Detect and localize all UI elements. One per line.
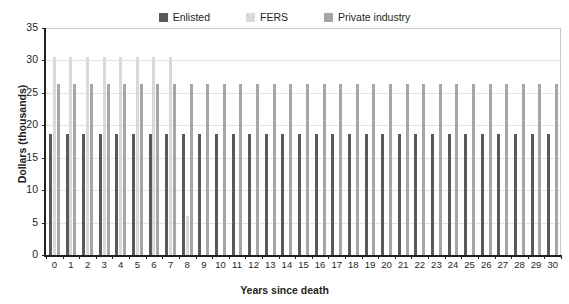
bar-private-industry: [422, 84, 425, 255]
legend-item-enlisted[interactable]: Enlisted: [159, 12, 210, 23]
bar-group: 2: [79, 28, 96, 255]
bar-enlisted: [497, 134, 500, 255]
x-axis-tick-label: 7: [162, 259, 180, 270]
bar-enlisted: [115, 134, 118, 255]
legend-item-fers[interactable]: FERS: [246, 12, 288, 23]
bar-private-industry: [173, 84, 176, 255]
bar-enlisted: [514, 134, 517, 255]
bar-fers: [169, 57, 172, 255]
bar-group: 5: [129, 28, 146, 255]
bar-enlisted: [49, 134, 52, 255]
bar-chart: EnlistedFERSPrivate industry Dollars (th…: [0, 0, 569, 304]
x-axis-tick-label: 1: [62, 259, 80, 270]
bar-private-industry: [206, 84, 209, 255]
bar-enlisted: [66, 134, 69, 255]
x-axis-tick-label: 2: [79, 259, 97, 270]
y-axis-tick-label: 15: [12, 151, 38, 163]
x-axis-tick: [561, 255, 562, 259]
bar-private-industry: [522, 84, 525, 255]
bar-enlisted: [431, 134, 434, 255]
y-axis-tick-label: 0: [12, 248, 38, 260]
bar-group: 6: [146, 28, 163, 255]
bar-private-industry: [289, 84, 292, 255]
x-axis-tick-label: 30: [544, 259, 562, 270]
x-axis-tick-label: 3: [95, 259, 113, 270]
bar-fers: [53, 57, 56, 255]
bar-group: 9: [196, 28, 213, 255]
x-axis-tick-label: 28: [510, 259, 528, 270]
bar-group: 7: [162, 28, 179, 255]
bar-enlisted: [365, 134, 368, 255]
bar-group: 3: [96, 28, 113, 255]
bar-group: 23: [428, 28, 445, 255]
legend-label: Private industry: [338, 12, 410, 23]
bar-private-industry: [389, 84, 392, 255]
bar-private-industry: [323, 84, 326, 255]
bar-enlisted: [265, 134, 268, 255]
bar-fers: [136, 57, 139, 255]
bar-group: 27: [495, 28, 512, 255]
y-axis-tick-label: 25: [12, 86, 38, 98]
x-axis-tick-label: 26: [477, 259, 495, 270]
bar-enlisted: [414, 134, 417, 255]
x-axis-tick-label: 18: [344, 259, 362, 270]
bar-private-industry: [372, 84, 375, 255]
legend-item-private-industry[interactable]: Private industry: [324, 12, 410, 23]
chart-legend: EnlistedFERSPrivate industry: [0, 9, 569, 25]
bar-private-industry: [57, 84, 60, 255]
bar-private-industry: [90, 84, 93, 255]
y-axis-tick-label: 5: [12, 216, 38, 228]
x-axis-tick-label: 11: [228, 259, 246, 270]
bar-group: 13: [262, 28, 279, 255]
bar-group: 11: [229, 28, 246, 255]
x-axis-tick-label: 17: [328, 259, 346, 270]
bar-fers: [69, 57, 72, 255]
bar-group: 25: [461, 28, 478, 255]
bar-enlisted: [448, 134, 451, 255]
bar-group: 12: [245, 28, 262, 255]
bar-enlisted: [398, 134, 401, 255]
x-axis-tick-label: 19: [361, 259, 379, 270]
x-axis-tick-label: 23: [427, 259, 445, 270]
y-axis-tick-label: 30: [12, 53, 38, 65]
bar-private-industry: [223, 84, 226, 255]
x-axis-tick-label: 15: [295, 259, 313, 270]
bar-private-industry: [356, 84, 359, 255]
x-axis-tick-label: 25: [461, 259, 479, 270]
x-axis-tick-label: 14: [278, 259, 296, 270]
bar-group: 22: [411, 28, 428, 255]
bar-private-industry: [306, 84, 309, 255]
bar-group: 16: [312, 28, 329, 255]
bar-enlisted: [298, 134, 301, 255]
bar-fers: [119, 57, 122, 255]
bar-enlisted: [547, 134, 550, 255]
bar-private-industry: [239, 84, 242, 255]
bar-group: 30: [544, 28, 561, 255]
x-axis-tick-label: 27: [494, 259, 512, 270]
legend-swatch-icon: [324, 13, 333, 22]
bar-private-industry: [538, 84, 541, 255]
bar-group: 24: [445, 28, 462, 255]
x-axis-tick-label: 20: [378, 259, 396, 270]
x-axis-tick-label: 22: [411, 259, 429, 270]
bar-private-industry: [273, 84, 276, 255]
bar-fers: [186, 216, 189, 255]
bar-group: 28: [511, 28, 528, 255]
bar-enlisted: [464, 134, 467, 255]
bar-enlisted: [481, 134, 484, 255]
bar-enlisted: [165, 134, 168, 255]
bar-enlisted: [182, 134, 185, 255]
legend-swatch-icon: [159, 13, 168, 22]
x-axis-tick-label: 0: [45, 259, 63, 270]
bar-enlisted: [381, 134, 384, 255]
bar-fers: [152, 57, 155, 255]
x-axis-tick-label: 24: [444, 259, 462, 270]
bar-fers: [86, 57, 89, 255]
legend-label: Enlisted: [173, 12, 210, 23]
bar-private-industry: [156, 84, 159, 255]
x-axis-tick-label: 29: [527, 259, 545, 270]
bar-group: 21: [395, 28, 412, 255]
bar-enlisted: [348, 134, 351, 255]
bar-private-industry: [256, 84, 259, 255]
bar-private-industry: [555, 84, 558, 255]
